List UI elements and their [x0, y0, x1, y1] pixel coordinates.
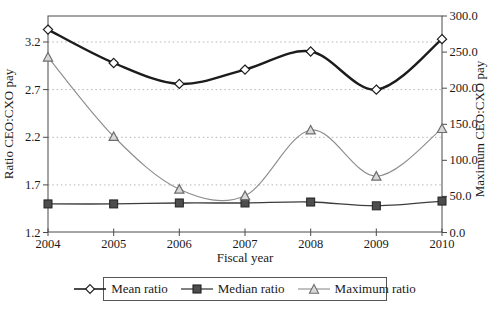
legend-label-median-ratio: Median ratio	[218, 281, 285, 297]
series-line-mean-ratio	[48, 30, 442, 90]
left-tick-label: 2.7	[25, 83, 41, 97]
right-tick-label: 50.0	[450, 189, 472, 203]
legend-label-maximum-ratio: Maximum ratio	[335, 281, 416, 297]
marker-open-triangle-maximum-ratio	[175, 185, 184, 194]
legend-filled-square-icon	[181, 283, 213, 295]
marker-open-triangle-maximum-ratio	[43, 53, 52, 62]
legend: Mean ratioMedian ratioMaximum ratio	[103, 277, 387, 301]
x-tick-label: 2007	[233, 237, 258, 251]
series-line-maximum-ratio	[48, 57, 442, 201]
legend-item-mean-ratio: Mean ratio	[74, 281, 168, 297]
right-tick-label: 300.0	[450, 9, 478, 23]
marker-open-diamond-mean-ratio	[372, 85, 381, 94]
marker-filled-square-median-ratio	[307, 198, 315, 206]
marker-open-diamond-mean-ratio	[175, 79, 184, 88]
legend-open-triangle-icon	[298, 283, 330, 295]
filled-square-glyph	[193, 285, 201, 293]
x-tick-label: 2006	[167, 237, 192, 251]
marker-open-diamond-mean-ratio	[43, 25, 52, 34]
marker-open-diamond-mean-ratio	[109, 58, 118, 67]
left-tick-label: 1.7	[25, 178, 41, 192]
marker-open-diamond-mean-ratio	[240, 65, 249, 74]
left-tick-label: 3.2	[25, 35, 41, 49]
x-axis-title: Fiscal year	[217, 250, 274, 265]
marker-filled-square-median-ratio	[438, 197, 446, 205]
x-tick-label: 2010	[430, 237, 455, 251]
marker-filled-square-median-ratio	[110, 200, 118, 208]
marker-open-triangle-maximum-ratio	[437, 124, 446, 132]
left-axis-title: Ratio CEO:CXO pay	[1, 68, 16, 179]
marker-filled-square-median-ratio	[175, 199, 183, 207]
right-tick-label: 250.0	[450, 45, 478, 59]
legend-item-median-ratio: Median ratio	[181, 281, 285, 297]
open-diamond-glyph	[86, 285, 95, 294]
chart-figure: 1.21.72.22.73.20.050.0100.0150.0200.0250…	[0, 0, 498, 313]
plot-canvas: 1.21.72.22.73.20.050.0100.0150.0200.0250…	[0, 0, 498, 313]
legend-item-maximum-ratio: Maximum ratio	[298, 281, 416, 297]
x-tick-label: 2004	[36, 237, 62, 251]
legend-label-mean-ratio: Mean ratio	[111, 281, 168, 297]
legend-open-diamond-icon	[74, 283, 106, 295]
right-axis-title: Maximum CEO:CXO pay	[472, 60, 487, 197]
marker-filled-square-median-ratio	[44, 200, 52, 208]
left-tick-label: 2.2	[25, 130, 41, 144]
marker-open-triangle-maximum-ratio	[240, 191, 249, 200]
x-tick-label: 2009	[364, 237, 389, 251]
x-tick-label: 2008	[298, 237, 323, 251]
marker-filled-square-median-ratio	[372, 202, 380, 210]
x-tick-label: 2005	[101, 237, 126, 251]
marker-open-diamond-mean-ratio	[306, 47, 315, 56]
